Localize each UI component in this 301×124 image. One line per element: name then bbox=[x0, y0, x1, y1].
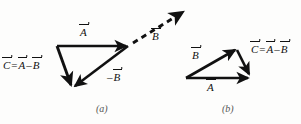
label-b-resultant-first: A bbox=[267, 44, 274, 55]
caption-panel-b: (b) bbox=[222, 103, 234, 114]
label-a-vector-a-text: A bbox=[80, 27, 87, 38]
label-a-resultant: C=A–B bbox=[3, 60, 40, 71]
vector-subtraction-figure: C=A–B A –B B B A C=A–B (a) (b) bbox=[0, 0, 301, 124]
label-a-vector-a: A bbox=[80, 27, 87, 38]
label-a-dashed-b-text: B bbox=[152, 31, 159, 42]
vector-a-arrow-C bbox=[57, 46, 71, 85]
label-b-resultant-lhs: C bbox=[251, 44, 258, 55]
label-b-vector-a: A bbox=[207, 82, 214, 93]
label-a-resultant-first: A bbox=[19, 60, 26, 71]
label-a-resultant-operator: – bbox=[25, 59, 33, 71]
label-b-resultant-equals: = bbox=[258, 43, 266, 55]
caption-panel-a: (a) bbox=[96, 103, 108, 114]
label-b-vector-b: B bbox=[192, 50, 199, 61]
vector-diagram-canvas bbox=[0, 0, 301, 124]
label-a-negative-b: –B bbox=[106, 72, 120, 83]
label-a-dashed-b: B bbox=[152, 31, 159, 42]
label-a-negative-b-sign: – bbox=[106, 71, 114, 83]
label-a-resultant-lhs: C bbox=[3, 60, 10, 71]
label-b-resultant-operator: – bbox=[273, 43, 281, 55]
label-b-resultant-second: B bbox=[281, 44, 288, 55]
label-a-resultant-second: B bbox=[33, 60, 40, 71]
label-a-resultant-equals: = bbox=[10, 59, 18, 71]
label-a-negative-b-text: B bbox=[114, 72, 121, 83]
label-b-vector-a-text: A bbox=[207, 82, 214, 93]
label-b-vector-b-text: B bbox=[192, 50, 199, 61]
vector-b-arrow-C bbox=[237, 50, 249, 74]
label-b-resultant: C=A–B bbox=[251, 44, 288, 55]
